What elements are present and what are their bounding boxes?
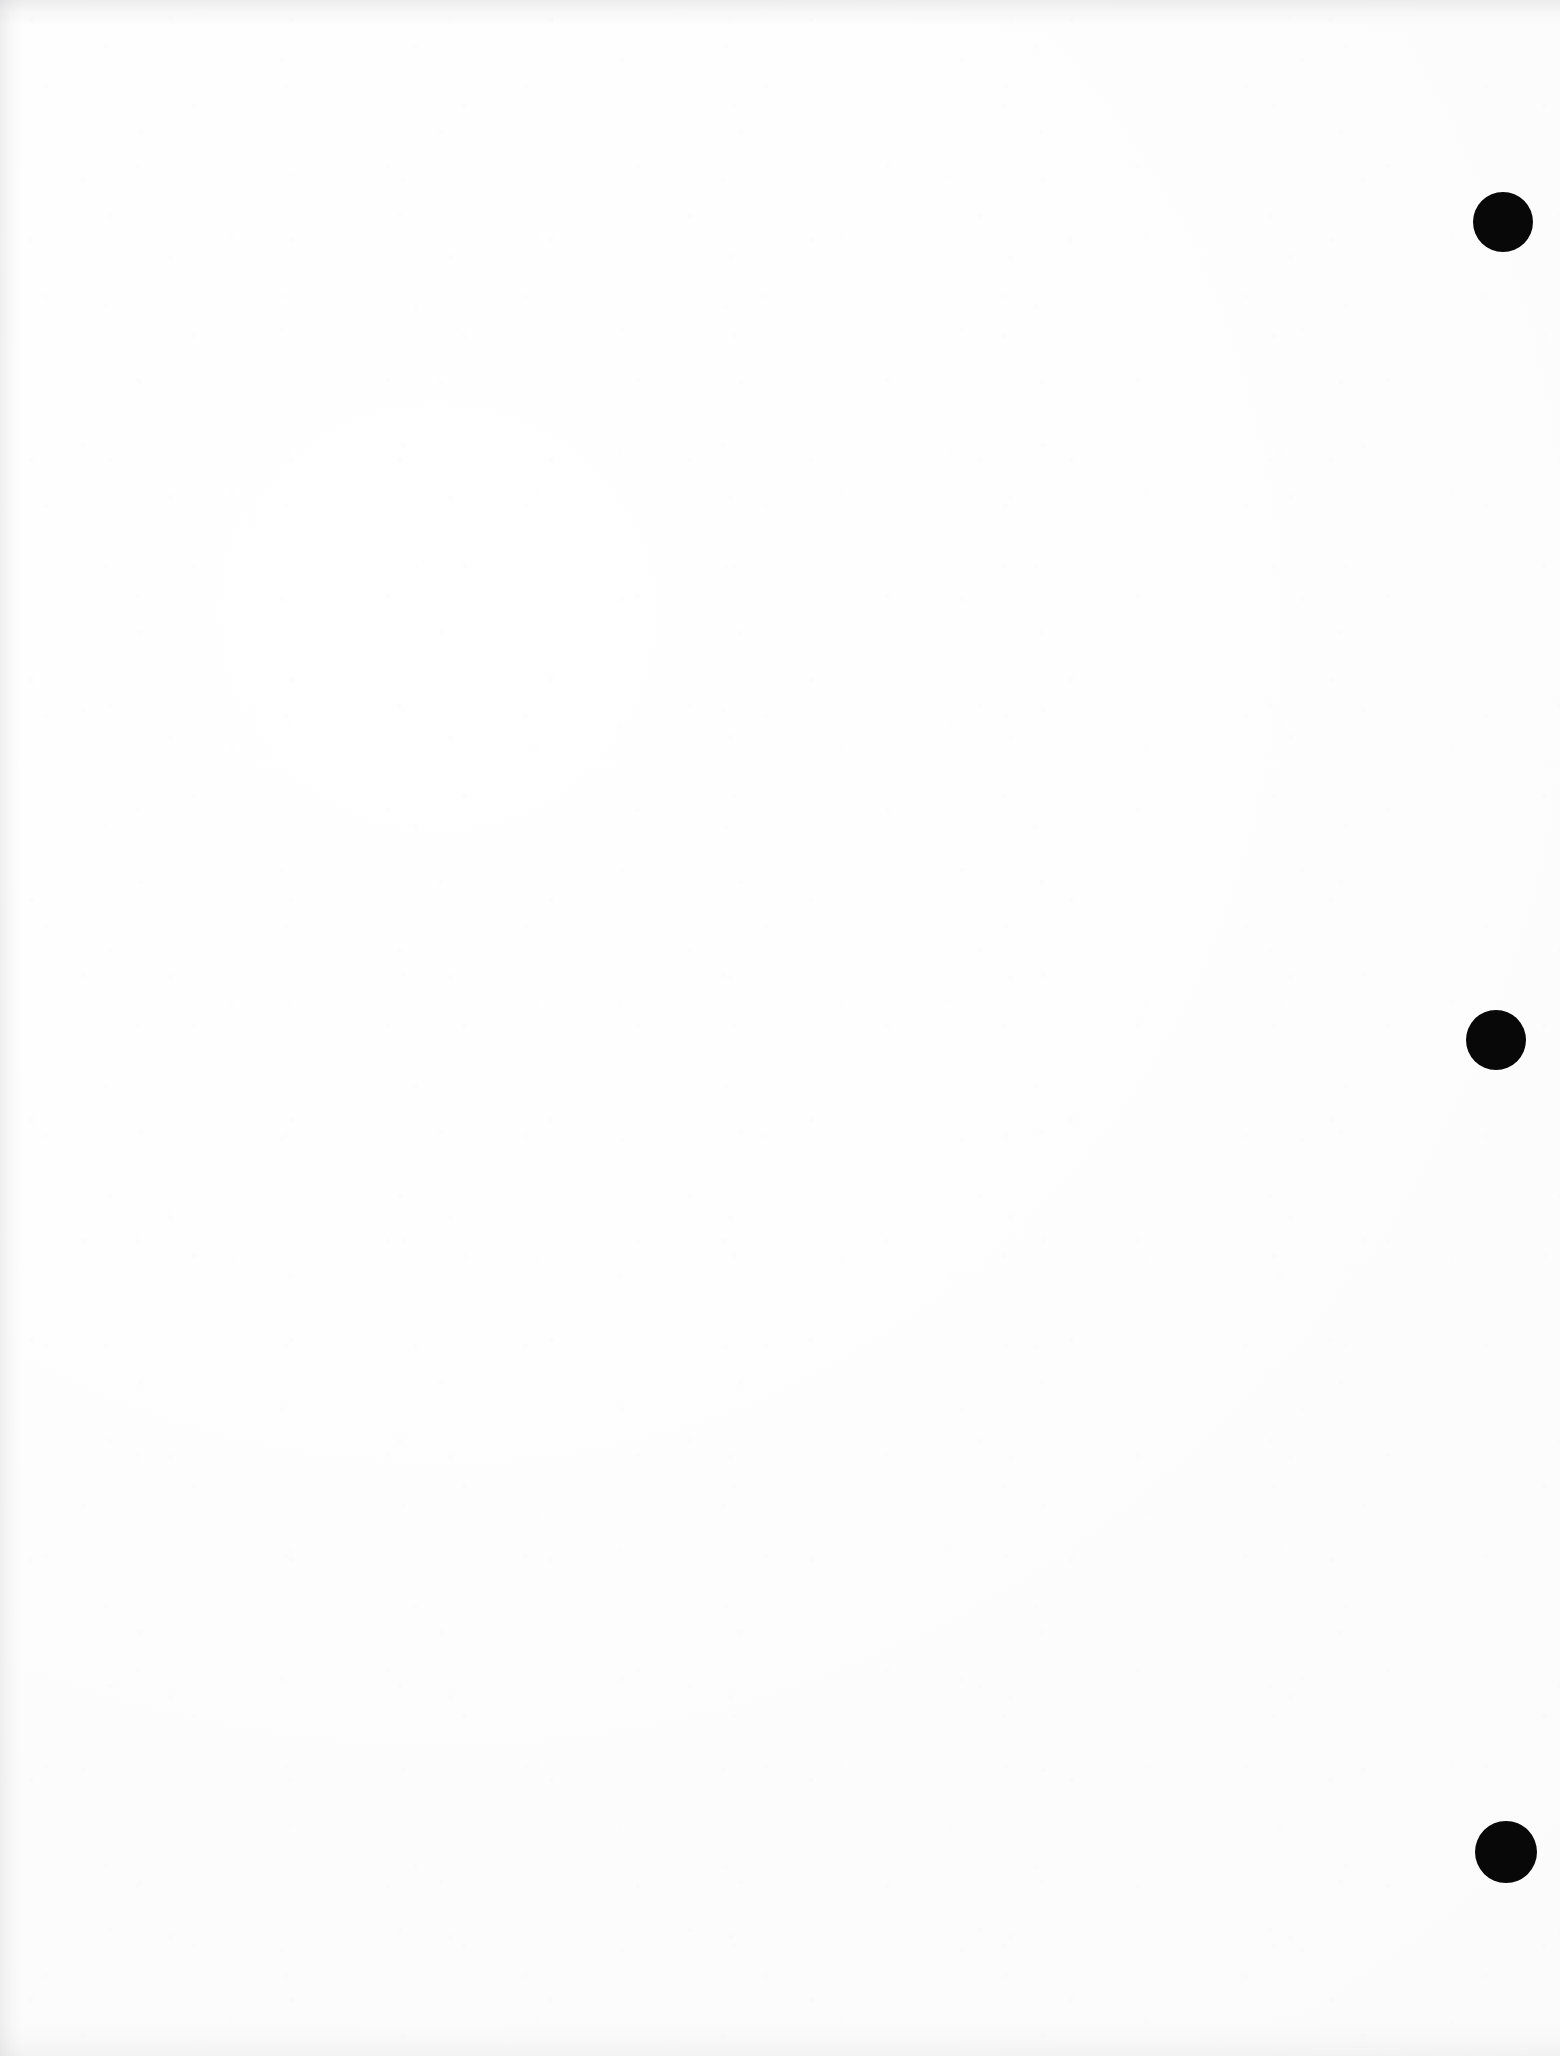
punch-hole-bottom — [1475, 1821, 1537, 1883]
bottom-edge-shadow — [0, 2022, 1560, 2056]
top-edge-shadow — [0, 0, 1560, 26]
paper-grain-texture — [0, 0, 1560, 2056]
punch-hole-middle — [1466, 1010, 1526, 1070]
left-edge-shadow — [0, 0, 22, 2056]
scanned-page — [0, 0, 1560, 2056]
punch-hole-top — [1473, 192, 1533, 252]
